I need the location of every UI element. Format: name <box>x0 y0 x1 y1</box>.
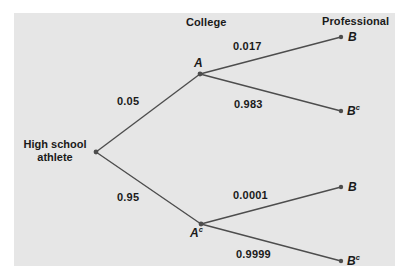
edge-ac-to-b <box>201 187 341 224</box>
prob-ac-to-b: 0.0001 <box>233 189 268 201</box>
node-root-line1: High school <box>24 138 87 150</box>
prob-ac-to-bc: 0.9999 <box>236 248 271 260</box>
header-professional: Professional <box>322 15 389 27</box>
node-a-complement-base: A <box>190 226 199 240</box>
node-bc-bottom-base: B <box>347 254 356 268</box>
node-a: A <box>194 56 203 70</box>
node-root: High school athlete <box>20 138 90 164</box>
node-b-top: B <box>348 30 357 44</box>
node-bc-bottom: Bc <box>347 254 360 268</box>
edge-a-to-b <box>200 37 341 74</box>
node-bc-top-superscript: c <box>356 103 360 112</box>
node-b-bottom: B <box>348 180 357 194</box>
prob-a-to-bc: 0.983 <box>234 98 263 110</box>
node-bc-top: Bc <box>347 104 360 118</box>
probability-tree-figure: College Professional High school athlete… <box>0 0 406 279</box>
edge-ac-to-bc <box>201 224 341 261</box>
node-bc-bottom-superscript: c <box>356 253 360 262</box>
header-college: College <box>186 16 226 28</box>
edge-root-to-ac <box>96 152 201 224</box>
prob-root-to-a: 0.05 <box>117 95 139 107</box>
vertex-bc-top <box>339 109 343 113</box>
prob-root-to-ac: 0.95 <box>117 191 139 203</box>
node-a-complement: Ac <box>190 226 203 240</box>
edge-root-to-a <box>96 74 200 152</box>
vertex-a <box>198 72 203 77</box>
node-bc-top-base: B <box>347 104 356 118</box>
vertex-bc-bottom <box>339 259 343 263</box>
vertex-b-top <box>339 35 343 39</box>
edge-a-to-bc <box>200 74 341 111</box>
vertex-root <box>94 150 99 155</box>
prob-a-to-b: 0.017 <box>233 40 262 52</box>
vertex-b-bottom <box>339 185 343 189</box>
node-a-complement-superscript: c <box>199 225 203 234</box>
node-root-line2: athlete <box>20 151 90 164</box>
